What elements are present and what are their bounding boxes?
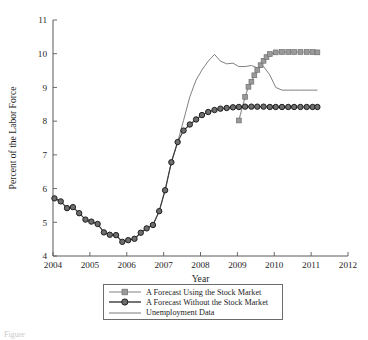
figure-caption-strip: Figure xyxy=(0,330,368,340)
data-point-forecast-nostock xyxy=(126,237,131,242)
x-tick-label-2012: 2012 xyxy=(339,260,358,270)
data-point-forecast-nostock xyxy=(150,222,155,227)
chart-legend: A Forecast Using the Stock Market A Fore… xyxy=(103,284,283,320)
y-tick-label-7: 7 xyxy=(42,150,47,160)
data-point-forecast-nostock xyxy=(206,109,211,114)
data-point-forecast-nostock xyxy=(224,105,229,110)
data-point-forecast-nostock xyxy=(175,139,180,144)
x-tick-label-2010: 2010 xyxy=(265,260,284,270)
data-point-forecast-nostock xyxy=(279,104,284,109)
data-point-forecast-nostock xyxy=(291,104,296,109)
legend-label-unemployment: Unemployment Data xyxy=(142,308,214,317)
x-tick-label-2009: 2009 xyxy=(228,260,247,270)
y-tick-label-11: 11 xyxy=(38,15,47,25)
data-point-forecast-nostock xyxy=(64,205,69,210)
data-point-forecast-nostock xyxy=(70,204,75,209)
legend-item-forecast-stock: A Forecast Using the Stock Market xyxy=(108,287,278,297)
data-point-forecast-nostock xyxy=(315,104,320,109)
data-point-forecast-nostock xyxy=(273,104,278,109)
data-point-forecast-nostock xyxy=(138,230,143,235)
data-point-forecast-stock xyxy=(243,94,248,99)
legend-label-forecast-nostock: A Forecast Without the Stock Market xyxy=(142,298,268,307)
data-point-forecast-nostock xyxy=(261,104,266,109)
data-point-forecast-nostock xyxy=(267,104,272,109)
data-point-forecast-nostock xyxy=(113,232,118,237)
y-tick-label-5: 5 xyxy=(42,218,47,228)
data-point-forecast-nostock xyxy=(89,219,94,224)
y-tick-label-9: 9 xyxy=(42,83,47,93)
data-point-forecast-stock xyxy=(236,118,241,123)
data-point-forecast-nostock xyxy=(249,104,254,109)
data-point-forecast-stock xyxy=(292,50,297,55)
data-point-forecast-nostock xyxy=(132,236,137,241)
data-point-forecast-nostock xyxy=(95,221,100,226)
data-point-forecast-nostock xyxy=(212,107,217,112)
figure-container: 4567891011200420052006200720082009201020… xyxy=(0,0,368,340)
x-tick-label-2005: 2005 xyxy=(81,260,100,270)
legend-item-unemployment: Unemployment Data xyxy=(108,308,278,318)
data-point-forecast-stock xyxy=(249,79,254,84)
y-tick-label-8: 8 xyxy=(42,116,47,126)
y-tick-label-6: 6 xyxy=(42,184,47,194)
series-forecast-stock xyxy=(236,50,319,123)
legend-label-forecast-stock: A Forecast Using the Stock Market xyxy=(142,288,261,297)
series-line-unemployment xyxy=(54,54,317,241)
data-point-forecast-nostock xyxy=(298,104,303,109)
x-tick-label-2007: 2007 xyxy=(154,260,173,270)
data-point-forecast-nostock xyxy=(162,188,167,193)
data-point-forecast-stock xyxy=(273,50,278,55)
data-point-forecast-nostock xyxy=(181,128,186,133)
data-point-forecast-nostock xyxy=(157,208,162,213)
series-unemployment xyxy=(54,54,317,241)
data-point-forecast-nostock xyxy=(242,104,247,109)
legend-item-forecast-nostock: A Forecast Without the Stock Market xyxy=(108,297,278,307)
data-point-forecast-nostock xyxy=(199,112,204,117)
data-point-forecast-stock xyxy=(315,50,320,55)
data-point-forecast-nostock xyxy=(144,226,149,231)
x-axis-title: Year xyxy=(192,273,210,284)
data-point-forecast-nostock xyxy=(58,199,63,204)
data-point-forecast-nostock xyxy=(304,104,309,109)
data-point-forecast-nostock xyxy=(255,104,260,109)
x-tick-label-2004: 2004 xyxy=(44,260,63,270)
data-point-forecast-nostock xyxy=(76,210,81,215)
data-point-forecast-nostock xyxy=(101,230,106,235)
y-axis-title: Percent of the Labor Force xyxy=(7,87,18,190)
data-point-forecast-stock xyxy=(280,50,285,55)
x-tick-label-2008: 2008 xyxy=(191,260,210,270)
series-group xyxy=(52,50,320,245)
data-point-forecast-nostock xyxy=(187,122,192,127)
series-forecast-nostock xyxy=(52,104,320,245)
data-point-forecast-stock xyxy=(267,52,272,57)
data-point-forecast-stock xyxy=(246,84,251,89)
data-point-forecast-nostock xyxy=(120,239,125,244)
data-point-forecast-nostock xyxy=(169,160,174,165)
data-point-forecast-stock xyxy=(255,68,260,73)
axis-spine xyxy=(53,20,348,256)
x-tick-label-2011: 2011 xyxy=(302,260,320,270)
data-point-forecast-stock xyxy=(252,73,257,78)
data-point-forecast-nostock xyxy=(236,104,241,109)
axes-group xyxy=(53,20,348,256)
legend-swatch-plain-line xyxy=(108,308,142,318)
data-point-forecast-nostock xyxy=(107,232,112,237)
legend-swatch-circle-line xyxy=(108,297,142,307)
data-point-forecast-stock xyxy=(298,50,303,55)
data-point-forecast-nostock xyxy=(193,117,198,122)
legend-swatch-square-line xyxy=(108,287,142,297)
ticks-group: 4567891011200420052006200720082009201020… xyxy=(38,15,358,270)
data-point-forecast-nostock xyxy=(83,217,88,222)
data-point-forecast-nostock xyxy=(52,196,57,201)
y-tick-label-10: 10 xyxy=(38,49,48,59)
axis-labels-group: YearPercent of the Labor Force xyxy=(7,87,210,284)
data-point-forecast-nostock xyxy=(218,106,223,111)
data-point-forecast-nostock xyxy=(230,105,235,110)
data-point-forecast-nostock xyxy=(286,104,291,109)
data-point-forecast-stock xyxy=(310,50,315,55)
data-point-forecast-stock xyxy=(286,50,291,55)
x-tick-label-2006: 2006 xyxy=(118,260,137,270)
data-point-forecast-stock xyxy=(304,50,309,55)
figure-caption-text: Figure xyxy=(0,330,368,339)
